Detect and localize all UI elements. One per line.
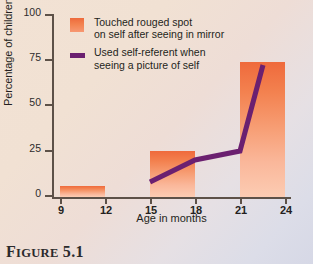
y-tick-label-75: 75 [29, 51, 41, 63]
caption-number: 5.1 [59, 243, 84, 260]
y-tick-label-0: 0 [35, 187, 41, 199]
self-referent-polyline [150, 65, 263, 182]
legend-label-line1: Used self-referent when [94, 46, 205, 58]
y-tick-0: 0 [45, 195, 52, 197]
y-tick-label-100: 100 [23, 6, 41, 18]
y-tick-100: 100 [45, 14, 52, 16]
legend-label-line2: seeing a picture of self [94, 59, 205, 71]
purple-dash-swatch-icon [70, 53, 85, 58]
legend-item-rouged-spot: Touched rouged spot on self after seeing… [70, 16, 224, 40]
legend-label-line2: on self after seeing in mirror [94, 28, 224, 40]
x-axis-title: Age in months [52, 212, 291, 224]
y-tick-label-50: 50 [29, 96, 41, 108]
chart-legend: Touched rouged spot on self after seeing… [70, 16, 224, 77]
y-tick-25: 25 [45, 150, 52, 152]
y-axis-title: Percentage of children [2, 0, 14, 106]
legend-key-bar [70, 16, 85, 40]
y-tick-75: 75 [45, 59, 52, 61]
caption-word: IGURE [16, 246, 58, 260]
figure-panel: Percentage of children 0 25 50 75 100 [0, 0, 313, 264]
legend-key-line [70, 46, 85, 70]
y-tick-50: 50 [45, 104, 52, 106]
caption-prefix: F [6, 243, 16, 260]
legend-label-self-referent: Used self-referent when seeing a picture… [94, 46, 205, 70]
y-tick-label-25: 25 [29, 142, 41, 154]
figure-caption: FIGURE 5.1 [6, 243, 84, 261]
legend-label-rouged-spot: Touched rouged spot on self after seeing… [94, 16, 224, 40]
legend-item-self-referent: Used self-referent when seeing a picture… [70, 46, 224, 70]
legend-label-line1: Touched rouged spot [94, 16, 224, 28]
orange-square-swatch-icon [70, 18, 84, 32]
